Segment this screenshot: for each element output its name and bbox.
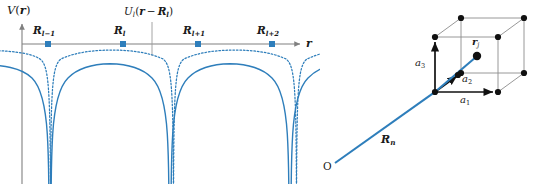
- Rn-label-text: R: [381, 133, 390, 146]
- cube-back-face: [461, 18, 524, 73]
- cube-vertex-origin: [432, 89, 438, 95]
- cube-vertex: [521, 70, 527, 76]
- lattice-site-marker: [45, 41, 51, 47]
- basis-atom-dot: [473, 52, 481, 60]
- cube-edge-connector-br: [498, 73, 524, 92]
- u-sub: l: [133, 11, 135, 19]
- Rn-label-sub: n: [390, 138, 395, 147]
- cube-edge-connector-tl: [435, 18, 461, 37]
- basis-position-label: rj: [472, 37, 479, 47]
- site-label-sub: l+2: [266, 29, 279, 38]
- site-label-text: R: [257, 24, 266, 36]
- x-axis-label: r: [306, 38, 312, 49]
- site-label-text: R: [183, 24, 192, 36]
- figure-root: V(r) r Ul(r−Rl) Rl−1 Rl Rl+1 Rl+2: [0, 0, 541, 184]
- origin-label-text: O: [323, 160, 332, 172]
- lattice-site-marker: [269, 41, 275, 47]
- lattice-site-label-l: Rl: [114, 25, 125, 36]
- lattice-site-label-l-plus-2: Rl+2: [257, 25, 279, 36]
- lattice-cell-panel: a1 a2 a3 rj Rn O: [320, 0, 541, 184]
- x-axis-label-text: r: [306, 37, 312, 50]
- u-minus: −: [145, 5, 158, 17]
- cube-vertex: [521, 15, 527, 21]
- origin-label: O: [323, 161, 332, 172]
- atomic-potential-curves: [0, 50, 330, 184]
- site-label-sub: l−1: [42, 29, 55, 38]
- y-axis-label-close: ): [26, 3, 31, 17]
- total-well-seg-2: [51, 64, 169, 184]
- u-close: ): [169, 5, 173, 17]
- lattice-site-marker: [120, 41, 126, 47]
- site-label-sub: l+1: [192, 29, 205, 38]
- lattice-site-label-l-minus-1: Rl−1: [33, 25, 55, 36]
- u-var1: r: [139, 5, 145, 17]
- cube-vertex: [495, 34, 501, 40]
- a2-vector-label: a2: [462, 74, 472, 84]
- u-func: U: [124, 5, 133, 17]
- a2-label-sub: 2: [468, 78, 472, 86]
- atomic-well-3: [174, 50, 297, 184]
- site-label-text: R: [114, 24, 123, 36]
- cube-vertex: [458, 15, 464, 21]
- total-well-seg-1: [0, 64, 49, 184]
- cube-vertex: [432, 34, 438, 40]
- periodic-potential-panel: V(r) r Ul(r−Rl) Rl−1 Rl Rl+1 Rl+2: [0, 0, 320, 184]
- u-var2-sub: l: [166, 10, 169, 19]
- a3-label-sub: 3: [421, 62, 425, 70]
- atomic-well-1: [0, 50, 51, 184]
- lattice-site-marker: [195, 41, 201, 47]
- lattice-diagram-svg: [320, 0, 541, 184]
- a3-vector-label: a3: [415, 58, 425, 68]
- lattice-vector-Rn-arrow: [335, 93, 434, 163]
- lattice-vector-label: Rn: [381, 134, 396, 145]
- total-well-seg-3: [171, 64, 289, 184]
- cube-edge-connector-tr: [498, 18, 524, 37]
- a1-vector-label: a1: [460, 95, 470, 105]
- atomic-well-2: [51, 50, 174, 184]
- lattice-site-label-l-plus-1: Rl+1: [183, 25, 205, 36]
- y-axis-label: V(r): [7, 5, 30, 17]
- site-label-text: R: [33, 24, 42, 36]
- atomic-potential-annotation: Ul(r−Rl): [124, 6, 173, 17]
- cube-vertex: [495, 89, 501, 95]
- a2-tip-dot: [455, 72, 461, 78]
- a1-label-sub: 1: [466, 99, 470, 107]
